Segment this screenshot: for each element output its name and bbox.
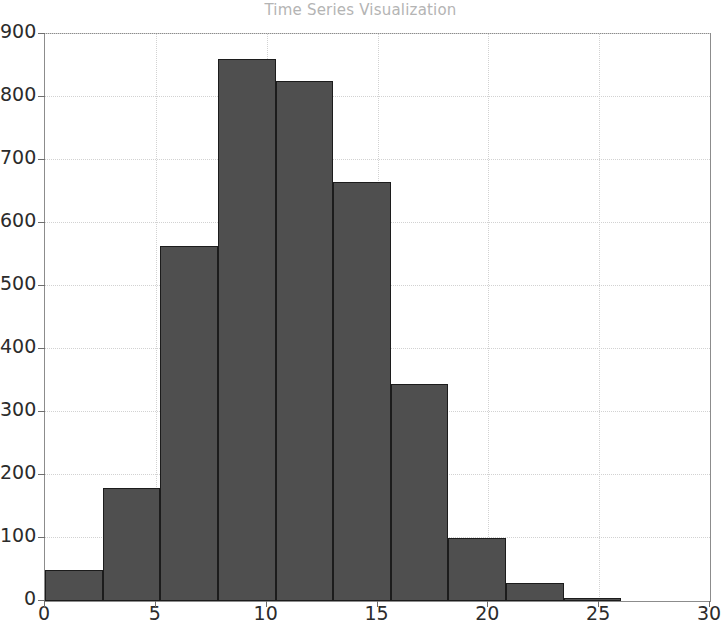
x-axis-tick-label: 10 [254,602,278,624]
y-axis-tick-label: 300 [0,398,36,420]
y-axis-tick-label: 500 [0,272,36,294]
y-axis-tick-label: 200 [0,461,36,483]
y-axis-tick-label: 0 [0,587,36,609]
plot-area [44,33,711,602]
bar [333,182,391,601]
x-axis-tick-label: 15 [364,602,388,624]
x-axis-tick-label: 20 [475,602,499,624]
x-axis-tick-label: 0 [38,602,50,624]
x-axis-tick-label: 30 [697,602,721,624]
x-axis-tick-label: 5 [149,602,161,624]
y-axis-tick-label: 400 [0,335,36,357]
bar [103,488,161,601]
bar [506,583,564,601]
bars-group [45,34,710,601]
bar [448,538,506,601]
y-axis-tick-label: 800 [0,83,36,105]
y-axis-tick-label: 700 [0,146,36,168]
histogram-figure: Time Series Visualization 01002003004005… [0,0,721,626]
x-axis-tick-label: 25 [586,602,610,624]
bar [564,598,622,601]
y-axis-tick-label: 100 [0,524,36,546]
bar [391,384,449,601]
bar [276,81,334,601]
chart-title: Time Series Visualization [0,1,721,19]
bar [160,246,218,601]
bar [45,570,103,602]
y-axis-tick-label: 900 [0,20,36,42]
bar [218,59,276,601]
y-axis-tick-label: 600 [0,209,36,231]
